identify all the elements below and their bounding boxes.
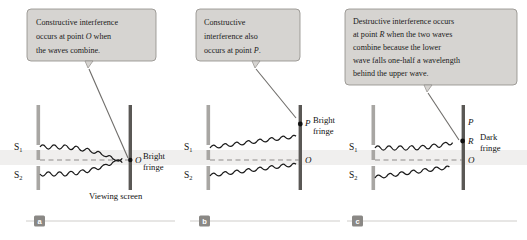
leader-line-a: [89, 69, 128, 158]
leader-line-c: [428, 93, 459, 140]
point-label-o-a: O: [135, 155, 142, 165]
viewing-screen-label: Viewing screen: [89, 191, 143, 201]
leader-line-b: [256, 69, 296, 118]
callout-b-line-2: interference also: [204, 32, 258, 41]
source-label-s1-c: S1: [349, 142, 358, 153]
callout-c-line-1: Destructive interference occurs: [353, 17, 454, 26]
callout-a-line-1: Constructive interference: [36, 18, 118, 27]
fringe-label-a-line1: Bright: [143, 151, 166, 161]
point-label-p-b: P: [304, 118, 311, 128]
panel-badge-b-letter: b: [202, 217, 207, 226]
wave-s2-b: [210, 163, 296, 176]
callout-b-line-1: Constructive: [204, 18, 246, 27]
fringe-label-a-line2: fringe: [143, 162, 164, 172]
panel-b: Constructive interference also occurs at…: [184, 9, 340, 227]
source-label-s1-b: S1: [184, 142, 193, 153]
fringe-label-b-line1: Bright: [313, 115, 336, 125]
fringe-label-c-line1: Dark: [480, 132, 498, 142]
barrier-a: [37, 105, 41, 190]
source-label-s2-c: S2: [349, 170, 358, 181]
point-label-o-c: O: [468, 155, 475, 165]
panel-badge-c-letter: c: [355, 217, 359, 226]
wave-s1-c: [375, 142, 453, 150]
center-band: [0, 150, 527, 165]
point-label-p-c: P: [467, 117, 474, 127]
callout-c-line-3: combine because the lower: [353, 43, 441, 52]
point-label-o-b: O: [305, 155, 312, 165]
panel-c: Destructive interference occurs at point…: [345, 9, 517, 227]
callout-c-line-4: wave falls one-half a wavelength: [353, 56, 460, 65]
barrier-b: [207, 105, 211, 190]
callout-b: Constructive interference also occurs at…: [196, 9, 300, 68]
barrier-c: [372, 105, 376, 190]
callout-a: Constructive interference occurs at poin…: [27, 9, 156, 68]
fringe-label-b-line2: fringe: [313, 126, 334, 136]
viewing-screen-c: [462, 105, 465, 190]
interference-figure: Constructive interference occurs at poin…: [0, 0, 527, 240]
fringe-point-a: [128, 158, 132, 162]
viewing-screen-a: [129, 105, 132, 190]
fringe-point-b: [298, 122, 303, 127]
callout-c-line-5: behind the upper wave.: [353, 69, 429, 78]
callout-c: Destructive interference occurs at point…: [345, 9, 517, 92]
source-label-s2-b: S2: [184, 170, 193, 181]
callout-c-line-2: at point R when the two waves: [353, 30, 452, 39]
callout-a-line-3: the waves combine.: [36, 46, 100, 55]
source-label-s1-a: S1: [14, 142, 23, 153]
point-label-r-c: R: [467, 136, 474, 146]
source-label-s2-a: S2: [14, 170, 23, 181]
wave-s2-c: [375, 166, 449, 178]
wave-s1-b: [210, 135, 296, 148]
panel-a: Constructive interference occurs at poin…: [14, 9, 175, 227]
callout-a-line-2: occurs at point O when: [36, 32, 111, 41]
fringe-label-c-line2: fringe: [480, 143, 501, 153]
fringe-point-c: [460, 139, 465, 144]
callout-b-line-3: occurs at point P.: [204, 46, 261, 55]
viewing-screen-b: [299, 105, 302, 190]
